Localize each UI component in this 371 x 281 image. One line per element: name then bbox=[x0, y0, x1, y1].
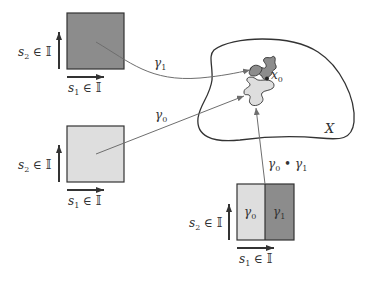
homotopy-concatenation-diagram: X x0 s2 ∈ 𝕀 s1 ∈ 𝕀 γ1 s2 ∈ 𝕀 s1 ∈ 𝕀 γ0 γ… bbox=[0, 0, 371, 281]
s1-axis-label: s1 ∈ 𝕀 bbox=[68, 194, 102, 210]
s2-axis-label: s2 ∈ 𝕀 bbox=[189, 216, 223, 232]
gamma0-domain-square bbox=[67, 126, 124, 182]
concat-map-label: γ0 • γ1 bbox=[268, 157, 307, 173]
s2-axis-label: s2 ∈ 𝕀 bbox=[18, 158, 52, 174]
gamma0-map-label: γ0 bbox=[155, 108, 167, 124]
s1-axis-label: s1 ∈ 𝕀 bbox=[239, 252, 273, 268]
space-x-label: X bbox=[324, 121, 335, 136]
gamma1-map-label: γ1 bbox=[154, 56, 166, 72]
concat-map-arrow bbox=[256, 108, 265, 184]
gamma1-domain-square bbox=[67, 13, 124, 69]
s1-axis-label: s1 ∈ 𝕀 bbox=[68, 81, 102, 97]
gamma0-map-arrow bbox=[96, 96, 244, 154]
basepoint-dot bbox=[265, 77, 269, 81]
basepoint-label: x0 bbox=[271, 68, 283, 84]
light-blob bbox=[244, 77, 274, 105]
s2-axis-label: s2 ∈ 𝕀 bbox=[18, 45, 52, 61]
